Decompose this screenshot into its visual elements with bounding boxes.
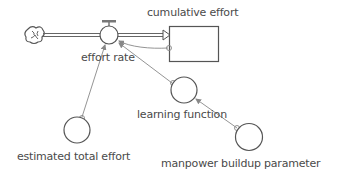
flow-pipe-inflow	[43, 34, 100, 37]
aux-learning-function[interactable]	[171, 77, 197, 103]
aux-estimated-total-effort[interactable]	[64, 117, 90, 143]
aux-label-learning-function: learning function	[137, 109, 227, 120]
aux-manpower-buildup-parameter[interactable]	[236, 124, 263, 151]
stock-label: cumulative effort	[147, 7, 238, 18]
link-stock-to-rate	[119, 41, 168, 48]
stock-cumulative-effort[interactable]	[170, 27, 219, 62]
flow-valve-effort-rate[interactable]	[100, 20, 118, 44]
flow-label: effort rate	[81, 52, 135, 63]
cloud-icon[interactable]	[25, 27, 44, 44]
aux-label-estimated-total-effort: estimated total effort	[17, 151, 130, 162]
stock-flow-diagram: cumulative effort effort rate learning f…	[0, 0, 342, 179]
flow-pipe-to-stock	[118, 30, 170, 40]
aux-label-manpower-buildup-parameter: manpower buildup parameter	[161, 158, 320, 169]
